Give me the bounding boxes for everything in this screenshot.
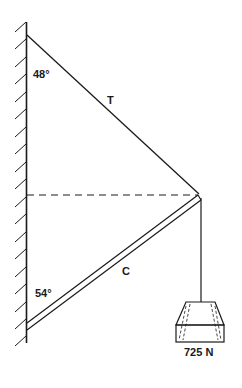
- strut-label: C: [122, 265, 130, 277]
- cable-label: T: [107, 94, 114, 106]
- cable-t: [27, 35, 199, 194]
- strut-c: [27, 195, 201, 330]
- strut-angle-label: 54°: [35, 287, 52, 299]
- cable-angle-label: 48°: [33, 68, 50, 80]
- wall: [15, 22, 27, 346]
- weight-block: [176, 302, 224, 342]
- weight-label: 725 N: [184, 346, 213, 358]
- wall-hatching: [15, 22, 26, 346]
- statics-diagram: 48° T C 54° 725 N: [0, 0, 242, 388]
